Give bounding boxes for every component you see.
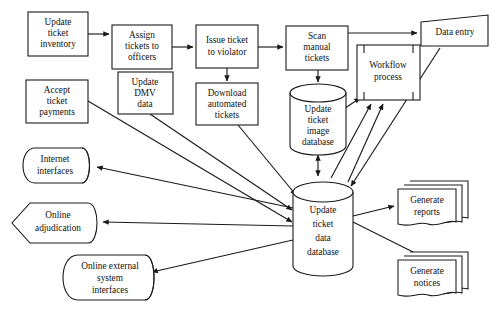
node-label-line: Accept <box>44 85 71 95</box>
node-label-line: ticket <box>48 28 69 38</box>
node-online-adjudication[interactable]: Online adjudication <box>12 203 97 243</box>
node-label-line: tickets to <box>125 41 159 51</box>
node-label-line: inventory <box>40 39 76 49</box>
node-label-line: ticket <box>47 96 68 106</box>
node-issue-ticket-to-violator[interactable]: Issue ticket to violator <box>196 25 258 68</box>
node-label-line: tickets <box>305 53 330 63</box>
node-label-line: Update <box>45 17 72 27</box>
edge-datadb-to-adjudication <box>103 222 293 226</box>
node-label-line: data <box>315 233 330 243</box>
node-label-line: database <box>302 137 334 147</box>
node-data-entry[interactable]: Data entry <box>421 15 488 46</box>
node-label-line: Download <box>208 88 247 98</box>
node-workflow-process[interactable]: Workflow process <box>357 45 420 100</box>
node-label-line: Issue ticket <box>206 35 248 45</box>
edge-datadb-to-external <box>152 240 293 272</box>
node-label-line: DMV <box>134 88 156 98</box>
node-label-line: process <box>374 72 402 82</box>
node-label-line: image <box>307 126 330 136</box>
node-label-line: Online <box>45 210 70 220</box>
node-label-line: Generate <box>410 195 444 205</box>
edge-download-to-datadb <box>238 125 296 195</box>
node-scan-manual-tickets[interactable]: Scan manual tickets <box>286 26 348 70</box>
node-generate-reports[interactable]: Generate reports <box>398 181 468 225</box>
edge-datadb-to-workflow-b <box>348 104 383 182</box>
node-label-line: Assign <box>129 30 155 40</box>
node-label-line: Data entry <box>436 27 475 37</box>
node-online-external-system-interfaces[interactable]: Online external system interfaces <box>63 255 154 300</box>
node-label-line: Workflow <box>369 60 407 70</box>
node-label-line: interfaces <box>37 166 74 176</box>
node-label-line: Update <box>305 104 332 114</box>
node-label-line: Scan <box>308 31 326 41</box>
node-accept-ticket-payments[interactable]: Accept ticket payments <box>26 80 88 123</box>
node-label-line: interfaces <box>92 285 129 295</box>
node-label-line: database <box>307 247 339 257</box>
node-label-line: Update <box>310 205 337 215</box>
edge-payments-to-datadb <box>88 101 292 222</box>
node-label-line: Internet <box>41 154 70 164</box>
node-label-line: officers <box>128 52 157 62</box>
node-update-ticket-image-database[interactable]: Update ticket image database <box>290 84 346 155</box>
node-update-dmv-data[interactable]: Update DMV data <box>118 72 173 114</box>
node-label-line: notices <box>414 278 441 288</box>
node-label-line: payments <box>39 107 75 117</box>
node-update-ticket-data-database[interactable]: Update ticket data database <box>293 182 353 276</box>
node-assign-tickets-to-officers[interactable]: Assign tickets to officers <box>112 25 172 69</box>
node-label-line: automated <box>208 99 247 109</box>
node-label-line: adjudication <box>35 223 81 233</box>
node-generate-notices[interactable]: Generate notices <box>398 252 468 296</box>
node-label-line: to violator <box>208 47 247 57</box>
node-label-line: ticket <box>313 219 334 229</box>
node-label-line: reports <box>414 207 440 217</box>
node-download-automated-tickets[interactable]: Download automated tickets <box>196 83 258 125</box>
node-label-line: ticket <box>308 115 329 125</box>
node-label-line: manual <box>303 42 331 52</box>
flowchart-diagram: Update ticket inventory Assign tickets t… <box>0 0 492 316</box>
node-label-line: Online external <box>81 261 139 271</box>
node-label-line: Update <box>132 77 159 87</box>
node-update-ticket-inventory[interactable]: Update ticket inventory <box>28 12 88 56</box>
node-label-line: tickets <box>215 110 240 120</box>
edge-dmv-to-datadb <box>150 114 292 210</box>
edge-datadb-to-internet <box>97 167 293 208</box>
edge-datadb-to-reports <box>353 206 394 216</box>
node-internet-interfaces[interactable]: Internet interfaces <box>23 148 90 183</box>
node-label-line: system <box>97 273 124 283</box>
node-label-line: Generate <box>410 266 444 276</box>
flowchart-canvas: Update ticket inventory Assign tickets t… <box>0 0 492 316</box>
node-label-line: data <box>137 99 152 109</box>
